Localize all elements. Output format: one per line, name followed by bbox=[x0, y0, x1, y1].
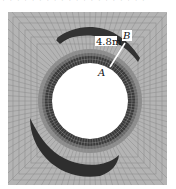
point-a-label: A bbox=[97, 67, 105, 78]
point-b-label: B bbox=[122, 30, 130, 41]
distance-label: 4.8m bbox=[96, 36, 122, 47]
tunnel-cross-section-figure: 4.8m B A bbox=[0, 0, 176, 189]
mesh-region bbox=[0, 0, 176, 189]
tunnel-opening bbox=[52, 63, 128, 139]
